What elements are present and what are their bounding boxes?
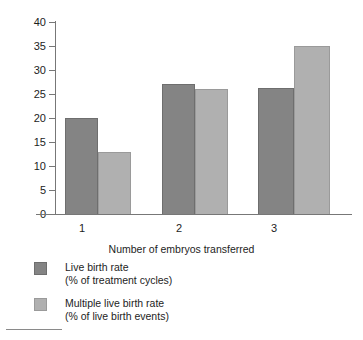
y-tick-label-text: 25 [16, 89, 46, 100]
y-tick-label-20: 20 [14, 113, 46, 124]
chart-legend: Live birth rate (% of treatment cycles) … [34, 261, 334, 333]
y-tick-label-30: 30 [14, 65, 46, 76]
legend-item-live-birth-rate[interactable]: Live birth rate (% of treatment cycles) [34, 261, 334, 287]
y-tick-label-text: 5 [16, 185, 46, 196]
y-tick-label-text: 15 [16, 137, 46, 148]
y-tick-label-40: 40 [14, 17, 46, 28]
bar-group1-multiple-live-birth-rate[interactable] [98, 152, 131, 214]
bar-chart-figure: 40 35 30 25 20 15 10 5 0 1 2 3 Number of… [0, 0, 363, 340]
y-tick-label-text: 10 [16, 161, 46, 172]
legend-label-group: Multiple live birth rate (% of live birt… [65, 297, 169, 323]
x-tick-label-1: 1 [62, 222, 102, 234]
y-tick-label-25: 25 [14, 89, 46, 100]
x-tick-label-2: 2 [159, 222, 199, 234]
legend-label-group: Live birth rate (% of treatment cycles) [65, 261, 172, 287]
x-axis-line [36, 214, 352, 215]
legend-swatch-icon [34, 262, 47, 275]
bar-group3-multiple-live-birth-rate[interactable] [294, 46, 330, 214]
y-tick-label-text: 30 [16, 65, 46, 76]
legend-label: Live birth rate [65, 261, 129, 273]
y-tick-label-text: 40 [16, 17, 46, 28]
legend-swatch-icon [34, 298, 47, 311]
bar-group2-multiple-live-birth-rate[interactable] [195, 89, 228, 214]
y-tick-label-35: 35 [14, 41, 46, 52]
legend-item-multiple-live-birth-rate[interactable]: Multiple live birth rate (% of live birt… [34, 297, 334, 323]
legend-sublabel: (% of treatment cycles) [65, 274, 172, 287]
bar-group3-live-birth-rate[interactable] [258, 88, 294, 214]
y-tick-label-text: 20 [16, 113, 46, 124]
y-tick-label-15: 15 [14, 137, 46, 148]
y-tick-label-5: 5 [14, 185, 46, 196]
x-tick-label-3: 3 [254, 222, 294, 234]
plot-area [56, 22, 348, 214]
footer-rule [6, 329, 62, 330]
legend-label: Multiple live birth rate [65, 297, 164, 309]
bar-group2-live-birth-rate[interactable] [162, 84, 195, 214]
y-tick-label-text: 35 [16, 41, 46, 52]
y-tick-label-10: 10 [14, 161, 46, 172]
x-axis-title: Number of embryos transferred [0, 243, 363, 255]
bar-group1-live-birth-rate[interactable] [65, 118, 98, 214]
legend-sublabel: (% of live birth events) [65, 310, 169, 323]
